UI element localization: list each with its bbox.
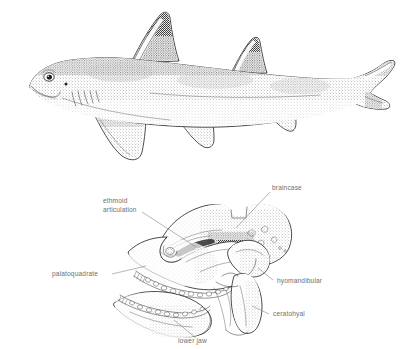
label-ceratohyal: ceratohyal: [273, 310, 305, 318]
label-hyomandibular: hyomandibular: [277, 277, 323, 285]
label-ethmoid-articulation-line2: articulation: [103, 206, 137, 213]
label-ethmoid-articulation-line1: ethmoid: [103, 197, 128, 204]
spiracle: [65, 83, 68, 86]
label-lower-jaw: lower jaw: [178, 337, 207, 345]
canvas-background: [0, 0, 410, 349]
figure-root: ethmoid articulation braincase palatoqua…: [0, 0, 410, 349]
figure-svg: ethmoid articulation braincase palatoqua…: [0, 0, 410, 349]
label-braincase: braincase: [272, 184, 302, 191]
label-palatoquadrate: palatoquadrate: [52, 270, 98, 278]
